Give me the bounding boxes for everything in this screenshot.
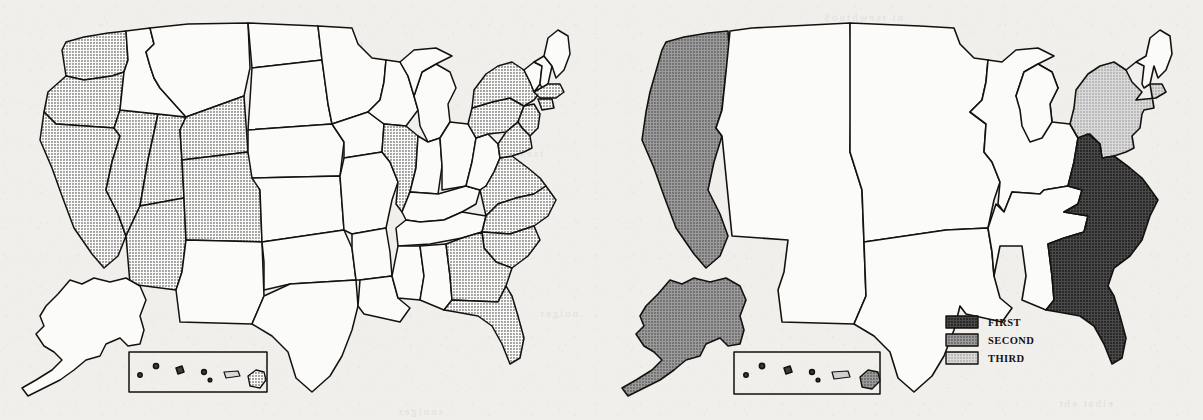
state-texas <box>252 280 358 392</box>
state-south-dakota <box>248 60 332 130</box>
hawaii-island-lanai <box>816 378 820 382</box>
region-west-north-central <box>850 23 1000 242</box>
state-level-map-svg <box>0 0 600 420</box>
hawaii-island-niihau <box>759 363 764 368</box>
rank-legend: FIRST SECOND THIRD <box>946 316 1034 364</box>
state-mississippi <box>392 246 424 300</box>
region-level-map-svg: FIRST SECOND THIRD <box>600 0 1203 420</box>
legend-label-third: THIRD <box>988 353 1024 364</box>
hawaii-island-molokai <box>202 370 207 375</box>
hawaii-island-niihau <box>153 363 158 368</box>
hawaii-island-maui <box>224 371 240 378</box>
region-west-south-central <box>854 228 1012 392</box>
region-northern-new-england <box>1126 30 1172 88</box>
legend-swatch-second <box>946 334 978 346</box>
hawaii-island-big-island <box>248 370 266 388</box>
hawaii-island-kauai <box>138 373 142 377</box>
region-alaska <box>622 278 746 396</box>
state-nebraska <box>248 124 344 178</box>
state-connecticut <box>538 99 554 110</box>
hawaii-island-big-island <box>860 370 880 389</box>
legend-swatch-third <box>946 352 978 364</box>
hawaii-island-oahu <box>784 366 792 374</box>
hawaii-island-oahu <box>176 366 184 374</box>
region-mountain <box>716 23 866 324</box>
legend-label-first: FIRST <box>988 317 1021 328</box>
hawaii-island-maui <box>832 371 850 379</box>
state-missouri <box>340 152 398 234</box>
hawaii-inset-box <box>734 352 880 394</box>
hawaii-inset-box <box>129 352 267 392</box>
state-oregon <box>44 72 124 128</box>
region-level-map: FIRST SECOND THIRD <box>600 0 1203 420</box>
hawaii-island-lanai <box>208 378 212 382</box>
state-arkansas <box>352 228 392 280</box>
state-alaska <box>22 278 146 396</box>
state-new-mexico <box>176 240 264 324</box>
hawaii-island-kauai <box>744 373 748 377</box>
state-level-map <box>0 0 600 420</box>
state-washington <box>62 31 128 80</box>
legend-swatch-first <box>946 316 978 328</box>
region-pacific <box>642 31 730 268</box>
hawaii-island-molokai <box>810 370 815 375</box>
legend-label-second: SECOND <box>988 335 1034 346</box>
